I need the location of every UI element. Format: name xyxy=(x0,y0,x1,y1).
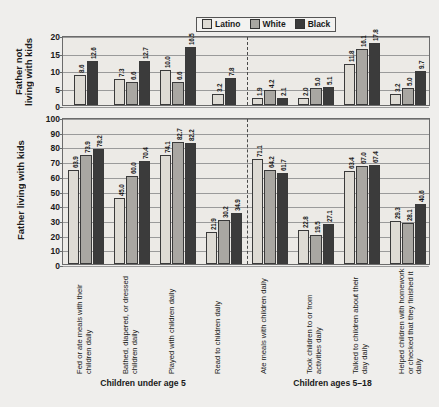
plot-area-bottom: 010203040506070809010063.973.978.245.060… xyxy=(62,118,430,265)
legend-item-black: Black xyxy=(295,19,331,29)
bar-value-label: 71.1 xyxy=(256,146,263,158)
bar-group: 3.25.09.7 xyxy=(385,37,431,105)
gridline xyxy=(63,107,429,108)
bar-group: 71.164.261.7 xyxy=(247,119,293,264)
bar-value-label: 29.3 xyxy=(394,207,401,219)
legend-label-black: Black xyxy=(308,19,331,29)
bar-latino: 74.1 xyxy=(160,155,171,264)
bar-white: 6.6 xyxy=(172,82,183,105)
x-axis-category-label: Took children to or from activities dail… xyxy=(306,268,338,374)
bar-value-label: 6.6 xyxy=(130,72,137,80)
bar-latino: 8.6 xyxy=(74,75,85,105)
x-axis-category-label: Helped children with homework or checked… xyxy=(398,268,430,374)
bar-group: 10.06.616.5 xyxy=(155,37,201,105)
bar-white: 4.2 xyxy=(264,90,275,105)
y-axis-title-bottom: Father living with kids xyxy=(16,118,30,263)
bar-group: 11.816.117.8 xyxy=(339,37,385,105)
bar-black: 82.2 xyxy=(185,143,196,264)
bar-black: 12.6 xyxy=(87,61,98,105)
legend-item-latino: Latino xyxy=(202,19,241,29)
bar-value-label: 22.8 xyxy=(302,217,309,229)
x-axis-category-label: Ate meals with children daily xyxy=(260,268,292,374)
bar-white: 30.2 xyxy=(218,220,229,264)
y-axis-title-top: Father not living with kids xyxy=(14,36,44,108)
y-axis-tick-label: 90 xyxy=(51,129,60,139)
legend-swatch-white xyxy=(250,19,260,29)
bar-black: 12.7 xyxy=(139,61,150,105)
bar-white: 16.1 xyxy=(356,49,367,105)
bar-value-label: 7.8 xyxy=(228,67,235,75)
y-axis-tick-label: 15 xyxy=(51,50,60,60)
bar-value-label: 12.7 xyxy=(142,47,149,59)
bar-black: 61.7 xyxy=(277,173,288,264)
bar-latino: 71.1 xyxy=(252,159,263,264)
bar-value-label: 63.9 xyxy=(72,156,79,168)
y-axis-tick-mark xyxy=(60,107,63,108)
chart-legend: Latino White Black xyxy=(196,17,336,32)
bar-black: 78.2 xyxy=(93,149,104,264)
x-axis-category-label: Read to children daily xyxy=(214,268,246,374)
bar-group: 2.05.05.1 xyxy=(293,37,339,105)
bar-value-label: 3.2 xyxy=(394,84,401,92)
gridline xyxy=(63,266,429,267)
legend-label-white: White xyxy=(263,19,286,29)
bar-value-label: 3.2 xyxy=(216,84,223,92)
bar-value-label: 60.0 xyxy=(130,162,137,174)
bar-white: 28.1 xyxy=(402,223,413,264)
bar-white: 6.6 xyxy=(126,82,137,105)
bar-latino: 3.2 xyxy=(390,94,401,105)
bar-value-label: 16.1 xyxy=(360,35,367,47)
bar-value-label: 82.7 xyxy=(176,129,183,141)
bar-latino: 63.9 xyxy=(68,170,79,264)
bar-group: 29.328.140.6 xyxy=(385,119,431,264)
bar-white: 5.0 xyxy=(402,88,413,106)
x-axis-category-label: Played with children daily xyxy=(168,268,200,374)
bar-value-label: 8.6 xyxy=(78,65,85,73)
bar-group: 3.27.8 xyxy=(201,37,247,105)
bar-black: 67.4 xyxy=(369,165,380,264)
bar-white: 19.5 xyxy=(310,235,321,264)
bar-value-label: 82.2 xyxy=(188,130,195,142)
bar-value-label: 64.2 xyxy=(268,156,275,168)
bar-black: 9.7 xyxy=(415,71,426,105)
y-axis-tick-label: 80 xyxy=(51,143,60,153)
bar-black: 34.9 xyxy=(231,213,242,264)
bar-latino: 63.4 xyxy=(344,171,355,264)
y-axis-tick-label: 50 xyxy=(51,188,60,198)
bar-value-label: 17.8 xyxy=(372,29,379,41)
bar-value-label: 78.2 xyxy=(96,135,103,147)
bar-value-label: 19.5 xyxy=(314,222,321,234)
bar-latino: 11.8 xyxy=(344,64,355,105)
bar-value-label: 63.4 xyxy=(348,157,355,169)
bar-black: 5.1 xyxy=(323,87,334,105)
bar-group: 21.930.234.9 xyxy=(201,119,247,264)
bar-latino: 21.9 xyxy=(206,232,217,264)
y-axis-tick-label: 30 xyxy=(51,217,60,227)
legend-label-latino: Latino xyxy=(215,19,241,29)
bar-value-label: 7.3 xyxy=(118,69,125,77)
bar-value-label: 2.0 xyxy=(302,88,309,96)
bar-value-label: 34.9 xyxy=(234,199,241,211)
bar-value-label: 67.4 xyxy=(372,151,379,163)
bar-group: 63.467.067.4 xyxy=(339,119,385,264)
bar-value-label: 1.9 xyxy=(256,88,263,96)
bar-value-label: 21.9 xyxy=(210,218,217,230)
x-axis-category-label: Fed or ate meals with their children dai… xyxy=(76,268,108,374)
bar-group: 22.819.527.1 xyxy=(293,119,339,264)
bar-white: 73.9 xyxy=(80,155,91,264)
bar-value-label: 9.7 xyxy=(418,61,425,69)
bar-latino: 45.0 xyxy=(114,198,125,264)
y-axis-tick-label: 70 xyxy=(51,158,60,168)
bar-value-label: 11.8 xyxy=(348,50,355,61)
y-axis-tick-label: 20 xyxy=(51,232,60,242)
bar-latino: 29.3 xyxy=(390,221,401,264)
bar-value-label: 4.2 xyxy=(268,80,275,88)
bar-latino: 2.0 xyxy=(298,98,309,105)
bar-value-label: 12.6 xyxy=(90,47,97,59)
bar-black: 17.8 xyxy=(369,43,380,105)
bar-value-label: 40.6 xyxy=(418,191,425,203)
section-title-under-5: Children under age 5 xyxy=(62,378,224,388)
legend-swatch-black xyxy=(295,19,305,29)
bar-value-label: 45.0 xyxy=(118,184,125,196)
bar-group: 7.36.612.7 xyxy=(109,37,155,105)
